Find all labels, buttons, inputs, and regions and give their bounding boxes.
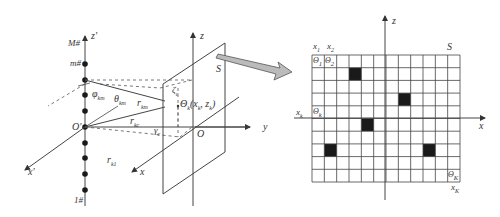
x-axis-label: x xyxy=(140,167,144,177)
array-top-label: M# xyxy=(68,39,80,48)
cell-theta-2: Θ2 xyxy=(325,57,334,67)
r-k1-label: rk1 xyxy=(107,155,117,167)
phi-label: φkm xyxy=(92,89,105,101)
y-axis-label: y xyxy=(263,122,267,132)
point-theta-k-label: Θk(xk, zk) xyxy=(180,99,215,111)
right-z-axis-label: z xyxy=(392,16,396,26)
r-km-label: rkm xyxy=(137,98,148,110)
col-label-x1: x1 xyxy=(313,42,320,53)
cell-theta-k: Θk xyxy=(313,108,322,118)
last-label-xK: xK xyxy=(451,183,459,194)
filled-cell xyxy=(324,144,336,157)
cell-theta-1: Θ1 xyxy=(313,57,322,67)
filled-cell xyxy=(423,144,435,157)
row-label-xk: xk xyxy=(296,108,303,119)
filled-cell xyxy=(361,119,373,132)
array-element-label: m# xyxy=(70,59,81,68)
x-prime-label: x′ xyxy=(28,167,35,177)
z-prime-label: z′ xyxy=(91,31,97,41)
transition-arrow xyxy=(216,54,292,80)
zeta-label: ζc xyxy=(172,86,178,97)
right-x-axis-label: x xyxy=(479,121,483,131)
x-prime-axis xyxy=(25,127,85,170)
theta-label: θkm xyxy=(114,94,126,106)
col-label-x2: x2 xyxy=(327,42,334,53)
filled-cell xyxy=(398,93,410,106)
array-bottom-label: 1# xyxy=(74,196,83,205)
r-kc-label: rkc xyxy=(130,116,139,128)
z-axis-label: z xyxy=(200,31,204,41)
origin-prime-label: O′ xyxy=(72,122,81,132)
plane-origin-label: O xyxy=(197,129,204,139)
diagram-canvas xyxy=(0,0,500,217)
plane-s-label: S xyxy=(216,64,221,74)
cell-theta-K: ΘK xyxy=(448,171,458,181)
filled-cell xyxy=(349,68,361,81)
right-plane-s-label: S xyxy=(447,42,452,52)
gamma-label: γc xyxy=(154,126,160,137)
left-geometry xyxy=(25,33,292,206)
